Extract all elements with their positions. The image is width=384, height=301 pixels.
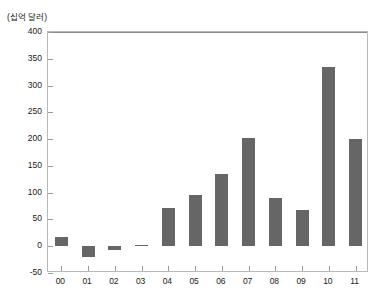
x-axis-tick — [356, 266, 357, 271]
y-axis-tick-label: -50 — [30, 267, 42, 277]
x-axis-tick-label: 05 — [189, 276, 198, 286]
x-axis-tick-label: 00 — [56, 276, 65, 286]
x-axis-tick-labels: 000102030405060708091011 — [47, 276, 368, 294]
y-axis-unit-label: (십억 달러) — [7, 10, 47, 22]
x-axis-tick-label: 08 — [270, 276, 279, 286]
bar — [349, 139, 362, 247]
y-axis-tick — [48, 86, 53, 87]
y-axis-tick — [48, 219, 53, 220]
x-axis-tick-label: 03 — [136, 276, 145, 286]
x-axis-tick-label: 02 — [109, 276, 118, 286]
zero-baseline — [48, 32, 367, 33]
y-axis-tick-label: 100 — [28, 187, 42, 197]
bar — [108, 246, 121, 250]
y-axis-tick-label: 400 — [28, 26, 42, 36]
y-axis-tick — [48, 193, 53, 194]
y-axis-tick-label: 0 — [37, 240, 42, 250]
x-axis-tick — [249, 266, 250, 271]
bar — [82, 246, 95, 257]
x-axis-tick — [222, 266, 223, 271]
x-axis-tick — [142, 266, 143, 271]
x-axis-tick-label: 10 — [323, 276, 332, 286]
y-axis-tick-label: 50 — [33, 213, 42, 223]
x-axis-tick — [275, 266, 276, 271]
y-axis-tick — [48, 166, 53, 167]
x-axis-tick — [115, 266, 116, 271]
x-axis-tick-label: 04 — [163, 276, 172, 286]
x-axis-tick — [302, 266, 303, 271]
bar — [322, 67, 335, 246]
x-axis-tick — [61, 266, 62, 271]
plot-area — [47, 31, 368, 272]
bar — [242, 138, 255, 246]
y-axis-tick-label: 150 — [28, 160, 42, 170]
x-axis-tick-label: 07 — [243, 276, 252, 286]
bar — [215, 174, 228, 246]
y-axis-tick-labels: 400350300250200150100500-50 — [0, 31, 42, 272]
bar — [135, 245, 148, 247]
x-axis-tick — [195, 266, 196, 271]
y-axis-tick-label: 200 — [28, 133, 42, 143]
y-axis-tick — [48, 139, 53, 140]
x-axis-tick — [168, 266, 169, 271]
x-axis-tick — [329, 266, 330, 271]
bar — [162, 208, 175, 247]
x-axis-tick-label: 06 — [216, 276, 225, 286]
bar — [189, 195, 202, 246]
x-axis-tick — [88, 266, 89, 271]
bar — [55, 237, 68, 247]
x-axis-tick-label: 11 — [350, 276, 359, 286]
y-axis-tick — [48, 32, 53, 33]
bar-chart-figure: (십억 달러) 400350300250200150100500-50 0001… — [0, 0, 384, 301]
y-axis-tick — [48, 112, 53, 113]
y-axis-tick-label: 300 — [28, 80, 42, 90]
y-axis-tick — [48, 273, 53, 274]
bar — [296, 210, 309, 246]
y-axis-tick-label: 350 — [28, 53, 42, 63]
bar — [269, 198, 282, 246]
x-axis-tick-label: 09 — [296, 276, 305, 286]
y-axis-tick — [48, 59, 53, 60]
x-axis-tick-label: 01 — [82, 276, 91, 286]
y-axis-tick-label: 250 — [28, 106, 42, 116]
y-axis-tick — [48, 246, 53, 247]
